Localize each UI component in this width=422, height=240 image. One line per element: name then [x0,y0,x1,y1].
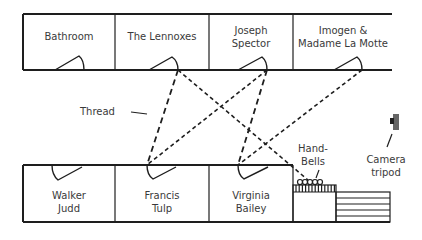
thread-label: Thread [80,105,130,118]
stairs [336,192,390,222]
door-walker-judd [52,165,82,180]
camera-icon [390,114,399,130]
room-lennoxes: The Lennoxes [115,30,209,43]
handbells-label: Hand- Bells [293,142,333,168]
handbells [298,180,323,185]
room-imogen-la-motte: Imogen & Madame La Motte [293,24,393,50]
thread-spector-francis [147,70,267,165]
room-virginia-bailey: Virginia Bailey [209,189,293,215]
door-lennoxes [149,57,178,70]
handbells-pointer [316,170,319,178]
room-bathroom: Bathroom [23,30,115,43]
door-bathroom [55,56,84,70]
door-virginia-bailey [238,165,268,179]
room-francis-tulp: Francis Tulp [115,189,209,215]
thread-lennoxes-francis [147,70,178,165]
door-joseph-spector [238,57,267,70]
camera-pointer [387,134,392,147]
door-francis-tulp [147,165,176,179]
camera-tripod-label: Camera tripod [356,153,416,179]
handbell-platform [293,185,336,222]
thread-pointer [131,112,147,114]
door-imogen [334,57,362,70]
room-joseph-spector: Joseph Spector [209,24,293,50]
room-walker-judd: Walker Judd [23,189,115,215]
thread-lennoxes-handbells [178,70,308,180]
thread-spector-virginia [238,70,267,165]
